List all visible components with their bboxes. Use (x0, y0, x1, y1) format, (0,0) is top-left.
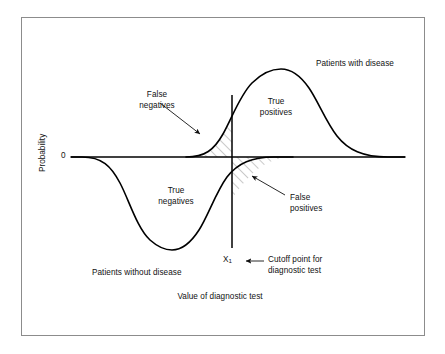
figure-page: Probability 0 Patients with disease True… (0, 0, 445, 354)
x-axis-label: Value of diagnostic test (145, 292, 295, 303)
label-false-negatives-line2: negatives (128, 101, 186, 112)
y-axis-label: Probability (38, 134, 47, 172)
y-axis-zero-tick: 0 (61, 151, 66, 160)
label-true-positives-line1: True (246, 97, 306, 108)
label-true-negatives-line2: negatives (145, 197, 207, 208)
cutoff-caption-line1: Cutoff point for (268, 255, 322, 266)
label-true-positives-line2: positives (246, 108, 306, 119)
label-false-positives-line2: positives (290, 204, 322, 215)
label-false-positives-line1: False (290, 193, 310, 204)
cutoff-marker-subscript: 1 (229, 257, 233, 264)
false-positives-leader-arrow (252, 176, 285, 195)
false-positives-region (232, 157, 293, 199)
label-false-negatives-line1: False (128, 90, 186, 101)
cutoff-marker-label: X1 (223, 255, 232, 267)
cutoff-caption-line2: diagnostic test (268, 266, 321, 277)
label-patients-with-disease: Patients with disease (316, 59, 394, 70)
label-patients-without-disease: Patients without disease (92, 268, 182, 279)
label-true-negatives-line1: True (145, 186, 207, 197)
